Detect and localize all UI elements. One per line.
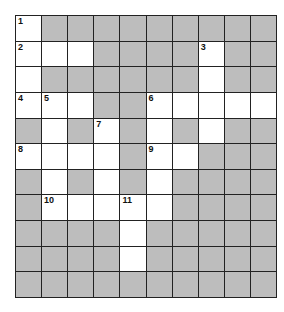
- crossword-block: [251, 144, 276, 169]
- crossword-block: [251, 16, 276, 41]
- crossword-cell[interactable]: 5: [42, 93, 67, 118]
- crossword-cell[interactable]: 1: [16, 16, 41, 41]
- crossword-cell[interactable]: [173, 93, 198, 118]
- crossword-block: [16, 195, 41, 220]
- crossword-block: [199, 170, 224, 195]
- crossword-block: [120, 42, 145, 67]
- crossword-cell[interactable]: [251, 93, 276, 118]
- crossword-block: [68, 272, 93, 297]
- crossword-cell[interactable]: [147, 195, 172, 220]
- crossword-cell[interactable]: [147, 119, 172, 144]
- crossword-cell[interactable]: 8: [16, 144, 41, 169]
- crossword-block: [16, 272, 41, 297]
- crossword-block: [225, 221, 250, 246]
- crossword-cell[interactable]: [199, 93, 224, 118]
- crossword-cell[interactable]: [199, 67, 224, 92]
- crossword-block: [251, 67, 276, 92]
- crossword-block: [147, 272, 172, 297]
- crossword-cell[interactable]: [68, 195, 93, 220]
- crossword-grid: 1234567891011: [15, 15, 277, 298]
- crossword-block: [173, 42, 198, 67]
- crossword-block: [173, 119, 198, 144]
- crossword-block: [120, 67, 145, 92]
- clue-number: 10: [44, 196, 54, 205]
- crossword-cell[interactable]: [42, 170, 67, 195]
- crossword-block: [120, 272, 145, 297]
- crossword-block: [173, 272, 198, 297]
- clue-number: 6: [149, 94, 154, 103]
- crossword-block: [16, 247, 41, 272]
- crossword-block: [94, 42, 119, 67]
- crossword-cell[interactable]: 3: [199, 42, 224, 67]
- crossword-block: [225, 144, 250, 169]
- crossword-block: [147, 221, 172, 246]
- crossword-block: [251, 272, 276, 297]
- crossword-block: [42, 16, 67, 41]
- crossword-cell[interactable]: 9: [147, 144, 172, 169]
- crossword-cell[interactable]: 7: [94, 119, 119, 144]
- crossword-cell[interactable]: [68, 144, 93, 169]
- crossword-block: [173, 16, 198, 41]
- crossword-block: [42, 272, 67, 297]
- crossword-cell[interactable]: [120, 221, 145, 246]
- crossword-cell[interactable]: [42, 144, 67, 169]
- clue-number: 1: [18, 17, 23, 26]
- crossword-block: [68, 221, 93, 246]
- clue-number: 2: [18, 43, 23, 52]
- crossword-block: [225, 119, 250, 144]
- crossword-block: [173, 170, 198, 195]
- crossword-cell[interactable]: 6: [147, 93, 172, 118]
- crossword-block: [251, 247, 276, 272]
- crossword-cell[interactable]: 10: [42, 195, 67, 220]
- crossword-cell[interactable]: [68, 93, 93, 118]
- crossword-cell[interactable]: [173, 144, 198, 169]
- crossword-block: [68, 247, 93, 272]
- crossword-block: [68, 67, 93, 92]
- crossword-block: [68, 170, 93, 195]
- crossword-cell[interactable]: [68, 42, 93, 67]
- crossword-block: [173, 221, 198, 246]
- crossword-cell[interactable]: [42, 42, 67, 67]
- crossword-cell[interactable]: [42, 119, 67, 144]
- crossword-block: [94, 221, 119, 246]
- crossword-block: [94, 272, 119, 297]
- crossword-cell[interactable]: 2: [16, 42, 41, 67]
- clue-number: 4: [18, 94, 23, 103]
- crossword-block: [94, 16, 119, 41]
- crossword-block: [16, 221, 41, 246]
- crossword-cell[interactable]: [94, 170, 119, 195]
- crossword-block: [16, 170, 41, 195]
- crossword-cell[interactable]: [120, 247, 145, 272]
- crossword-block: [225, 247, 250, 272]
- crossword-cell[interactable]: 11: [120, 195, 145, 220]
- crossword-block: [199, 144, 224, 169]
- crossword-block: [173, 67, 198, 92]
- crossword-block: [42, 221, 67, 246]
- crossword-block: [16, 119, 41, 144]
- crossword-cell[interactable]: [225, 93, 250, 118]
- crossword-block: [42, 247, 67, 272]
- crossword-cell[interactable]: [94, 195, 119, 220]
- crossword-cell[interactable]: [94, 144, 119, 169]
- clue-number: 9: [149, 145, 154, 154]
- crossword-block: [120, 170, 145, 195]
- crossword-block: [251, 221, 276, 246]
- crossword-block: [225, 272, 250, 297]
- crossword-block: [199, 16, 224, 41]
- crossword-block: [120, 16, 145, 41]
- crossword-block: [251, 42, 276, 67]
- crossword-block: [120, 119, 145, 144]
- crossword-cell[interactable]: 4: [16, 93, 41, 118]
- crossword-block: [225, 170, 250, 195]
- crossword-block: [42, 67, 67, 92]
- crossword-cell[interactable]: [147, 170, 172, 195]
- crossword-block: [199, 247, 224, 272]
- crossword-block: [94, 93, 119, 118]
- crossword-block: [120, 93, 145, 118]
- crossword-block: [147, 42, 172, 67]
- crossword-block: [199, 195, 224, 220]
- clue-number: 11: [122, 196, 132, 205]
- crossword-block: [173, 195, 198, 220]
- crossword-cell[interactable]: [16, 67, 41, 92]
- crossword-cell[interactable]: [199, 119, 224, 144]
